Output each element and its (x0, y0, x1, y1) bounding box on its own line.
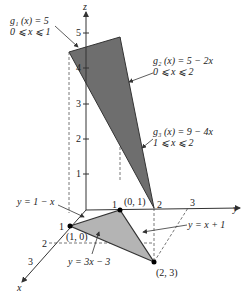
g1-domain: 0 ⩽ x ⩽ 1 (10, 26, 50, 37)
line-y-1-minus-x: y = 1 − x (16, 196, 55, 207)
point-label-1-0: (1, 0) (66, 231, 88, 243)
g2-domain: 0 ⩽ x ⩽ 2 (153, 66, 193, 77)
z-tick-5: 5 (76, 27, 81, 38)
z-tick-2: 2 (76, 133, 81, 144)
y-axis (86, 208, 240, 210)
z-tick-4: 4 (76, 62, 81, 73)
x-tick-1: 1 (59, 221, 64, 232)
y-tick-1: 1 (112, 199, 117, 210)
z-axis-label: z (82, 1, 87, 12)
y-tick-2: 2 (157, 199, 162, 210)
point-0-1 (118, 208, 123, 213)
x-tick-2: 2 (42, 238, 47, 249)
x-axis (22, 210, 86, 282)
upper-surface (69, 37, 154, 208)
point-label-0-1: (0, 1) (124, 196, 146, 208)
x-tick-3: 3 (28, 256, 33, 267)
x-axis-label: x (16, 282, 22, 292)
point-2-3 (152, 260, 157, 265)
diagram-canvas: 1 2 3 4 5 z 1 2 3 y 1 2 3 x (1, 0) (0, 1… (0, 0, 245, 292)
point-1-0 (68, 224, 73, 229)
line-y-x-plus-1: y = x + 1 (187, 219, 225, 230)
y-tick-3: 3 (190, 197, 195, 208)
g3-domain: 1 ⩽ x ⩽ 2 (153, 137, 193, 148)
3d-region-diagram: 1 2 3 4 5 z 1 2 3 y 1 2 3 x (1, 0) (0, 1… (0, 0, 245, 292)
z-tick-1: 1 (76, 168, 81, 179)
y-axis-label: y (232, 203, 238, 214)
point-label-2-3: (2, 3) (156, 267, 178, 279)
line-y-3x-minus-3: y = 3x − 3 (67, 256, 110, 267)
z-tick-3: 3 (76, 98, 81, 109)
